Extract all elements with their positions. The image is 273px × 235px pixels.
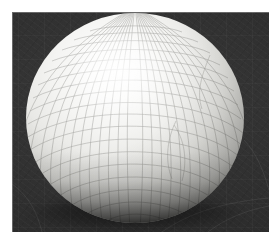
screenshot-root: Shaded sphere with subdivided quadrilate…: [0, 0, 273, 235]
mesh-parallels: [28, 26, 243, 221]
mesh-meridians: [26, 13, 244, 223]
sphere-object[interactable]: [26, 13, 244, 223]
scene-caption: Shaded sphere with subdivided quadrilate…: [0, 0, 1, 1]
render-viewport[interactable]: [12, 12, 269, 232]
sphere-wireframe-mesh: [26, 13, 244, 223]
